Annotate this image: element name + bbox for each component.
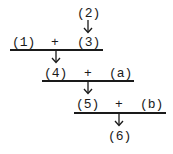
plus-sign: +	[84, 67, 92, 80]
reagent-b: (b)	[140, 98, 163, 111]
node-2: (2)	[77, 7, 100, 20]
plus-sign: +	[51, 36, 59, 49]
arrow-down-icon	[82, 81, 94, 95]
node-6: (6)	[108, 130, 131, 143]
node-3: (3)	[77, 36, 100, 49]
arrow-down-icon	[113, 113, 125, 127]
node-4: (4)	[44, 67, 67, 80]
reagent-a: (a)	[109, 67, 132, 80]
node-1: (1)	[12, 36, 35, 49]
arrow-down-icon	[82, 20, 94, 34]
arrow-down-icon	[50, 50, 62, 64]
node-5: (5)	[76, 98, 99, 111]
plus-sign: +	[115, 98, 123, 111]
